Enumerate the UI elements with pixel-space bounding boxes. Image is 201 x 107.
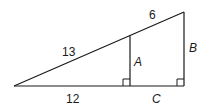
hypotenuse-line (14, 12, 184, 86)
label-base-small: 12 (66, 92, 80, 106)
right-angle-marker-inner (123, 79, 130, 86)
label-outer-leg: B (189, 41, 197, 55)
label-base-extension: C (152, 92, 161, 106)
label-hypotenuse-small: 13 (62, 45, 76, 59)
label-inner-leg: A (133, 55, 142, 69)
right-angle-marker-outer (177, 79, 184, 86)
triangle-diagram: 13 6 12 C A B (0, 0, 201, 107)
label-hypotenuse-extension: 6 (149, 8, 156, 22)
